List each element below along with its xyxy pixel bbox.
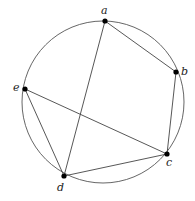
edge-a-d [64, 21, 105, 176]
circumscribed-circle [22, 21, 184, 183]
edge-a-b [105, 21, 176, 72]
vertex-d [61, 173, 66, 178]
vertex-label-d: d [57, 181, 64, 194]
vertex-labels: abcde [13, 4, 188, 194]
inscribed-graph-diagram: abcde [0, 0, 195, 201]
edge-b-c [167, 72, 176, 154]
edge-e-c [25, 89, 167, 154]
edges [25, 21, 176, 176]
edge-c-d [64, 154, 167, 176]
edge-d-e [25, 89, 64, 176]
vertex-e [22, 86, 27, 91]
vertex-label-a: a [101, 4, 108, 17]
vertex-label-e: e [13, 81, 20, 94]
vertex-b [173, 69, 178, 74]
vertex-a [102, 18, 107, 23]
vertex-label-b: b [181, 65, 188, 78]
vertex-label-c: c [166, 156, 172, 169]
